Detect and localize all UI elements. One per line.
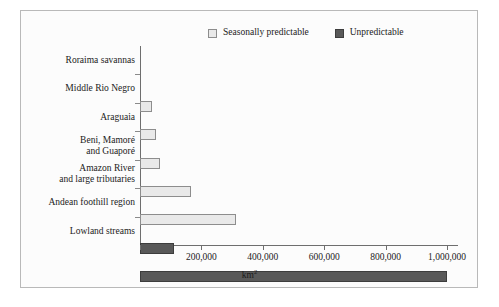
x-tick [263,245,264,250]
category-label-5: Amazon River and large tributaries [0,163,135,184]
bar-4 [140,186,191,197]
chart-legend: Seasonally predictable Unpredictable [208,25,404,41]
x-tick-label: 800,000 [351,252,421,262]
y-tick [135,188,140,189]
x-tick [140,245,141,250]
bar-row [140,92,447,120]
legend-label-unpredictable: Unpredictable [350,28,404,38]
x-tick [324,245,325,250]
x-axis-title: km2 [0,268,499,280]
x-tick-label: 600,000 [289,252,359,262]
figure: Seasonally predictable Unpredictable km2… [0,0,499,307]
bar-3 [140,158,160,169]
legend-label-seasonally-predictable: Seasonally predictable [223,28,309,38]
bar-1 [140,101,152,112]
x-tick-label: 400,000 [228,252,298,262]
bar-row [140,206,447,234]
plot-area [140,46,447,245]
bar-row [140,149,447,177]
bar-row [140,177,447,205]
x-tick [201,245,202,250]
x-axis-title-text: km [242,270,254,280]
bar-2 [140,129,156,140]
x-tick-label: 1,000,000 [412,252,482,262]
bar-5 [140,214,236,225]
category-label-6: Andean foothill region [0,197,135,208]
y-tick [135,160,140,161]
x-axis-title-exponent: 2 [254,268,257,275]
category-label-1: Roraima savannas [0,55,135,66]
y-tick [135,103,140,104]
category-label-4: Beni, Mamoré and Guaporé [0,135,135,156]
x-tick [386,245,387,250]
category-label-7: Lowland streams [0,226,135,237]
category-label-3: Araguaia [0,112,135,123]
x-tick [447,245,448,250]
legend-swatch-seasonally-predictable [208,29,217,38]
bar-row [140,120,447,148]
legend-swatch-unpredictable [335,29,344,38]
y-tick [135,217,140,218]
legend-entry-unpredictable: Unpredictable [335,28,404,38]
x-tick-label: 200,000 [166,252,236,262]
y-tick [135,74,140,75]
y-tick [135,131,140,132]
category-label-2: Middle Rio Negro [0,83,135,94]
legend-entry-seasonally-predictable: Seasonally predictable [208,28,309,38]
